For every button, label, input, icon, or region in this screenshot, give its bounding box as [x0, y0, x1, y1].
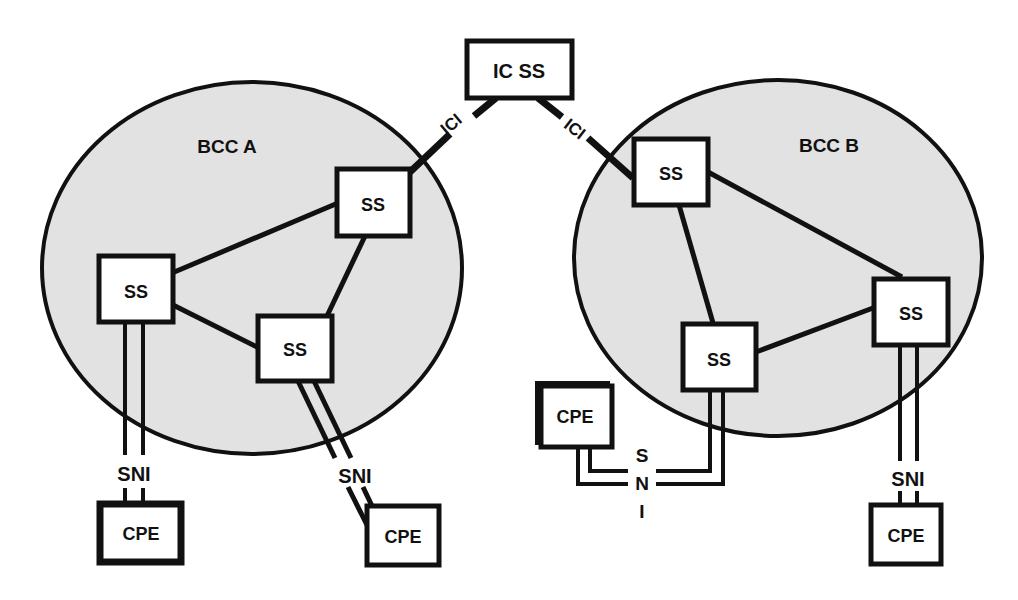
sni-letter-i: I	[639, 501, 644, 522]
svg-text:CPE: CPE	[122, 524, 159, 544]
bcc-b-label: BCC B	[799, 135, 859, 156]
bcc-a-label: BCC A	[197, 136, 257, 157]
bcc-a-ss-left: SS	[99, 256, 173, 322]
sni-label-a-right: SNI	[338, 465, 371, 487]
bcc-b-ss-top: SS	[634, 139, 708, 205]
svg-text:CPE: CPE	[887, 526, 924, 546]
svg-text:SS: SS	[899, 304, 923, 324]
sni-letter-s: S	[636, 445, 649, 466]
cpe-b-left: CPE	[535, 381, 612, 447]
bcc-b-ss-right: SS	[874, 279, 948, 345]
bcc-a-ss-top: SS	[337, 169, 410, 236]
network-diagram: ICI ICI SNI SNI SNI S N I	[0, 0, 1018, 600]
svg-text:SS: SS	[707, 350, 731, 370]
svg-text:SS: SS	[124, 282, 148, 302]
cpe-a-left: CPE	[100, 504, 181, 562]
svg-text:SS: SS	[361, 195, 385, 215]
ici-label-b: ICI	[560, 115, 589, 143]
ici-label-a: ICI	[437, 110, 466, 139]
svg-text:CPE: CPE	[384, 527, 421, 547]
ici-link-b	[538, 98, 633, 178]
sni-label-a-left: SNI	[117, 463, 150, 485]
bcc-a-ss-bottom: SS	[258, 316, 332, 381]
ic-ss-label: IC SS	[493, 60, 545, 82]
bcc-b-cloud	[574, 80, 982, 436]
ic-ss-node: IC SS	[467, 41, 572, 98]
svg-text:SS: SS	[283, 340, 307, 360]
sni-letter-n: N	[635, 473, 649, 494]
sni-label-b-right: SNI	[891, 468, 924, 490]
svg-text:CPE: CPE	[556, 407, 593, 427]
cpe-a-right: CPE	[367, 506, 439, 565]
bcc-b-ss-bottom: SS	[683, 324, 756, 390]
svg-text:SS: SS	[659, 164, 683, 184]
cpe-b-right: CPE	[871, 505, 941, 564]
